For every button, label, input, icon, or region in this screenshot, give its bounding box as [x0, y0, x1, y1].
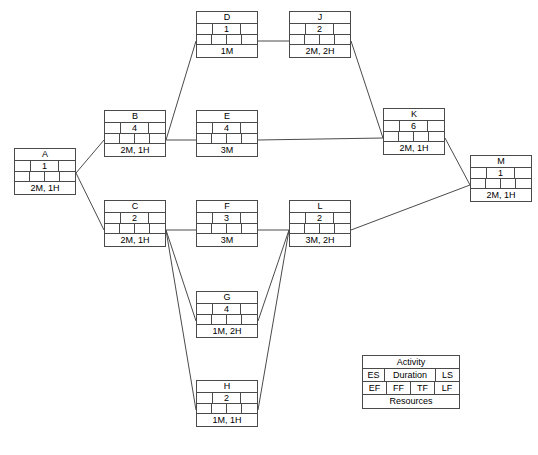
activity-node-h[interactable]: H21M, 1H [196, 380, 258, 427]
node-resources: 2M, 1H [384, 142, 444, 154]
node-resources: 3M [197, 144, 257, 156]
node-ls-cell [241, 213, 257, 223]
legend-row-mid: ES Duration LS [363, 369, 459, 382]
node-lf-cell [242, 134, 257, 143]
node-ef-cell [15, 172, 30, 181]
node-ef-cell [197, 404, 212, 413]
node-resources-row: 2M, 1H [105, 144, 165, 156]
node-name: K [384, 109, 444, 120]
activity-node-d[interactable]: D11M [196, 11, 258, 58]
node-name-row: B [105, 111, 165, 123]
node-duration-cell: 2 [306, 213, 334, 223]
node-name-row: K [384, 109, 444, 121]
legend-ls-label: LS [436, 369, 459, 381]
node-ef-cell [197, 224, 212, 233]
node-ls-cell [149, 123, 165, 133]
activity-node-k[interactable]: K62M, 1H [383, 108, 445, 155]
node-lf-cell [242, 35, 257, 44]
node-lf-cell [242, 224, 257, 233]
node-ls-cell [59, 161, 75, 171]
node-ff-cell [120, 224, 135, 233]
node-es-duration-ls-row: 6 [384, 121, 444, 132]
edge-k-to-m [445, 138, 470, 185]
node-tf-cell [320, 224, 335, 233]
legend-tf-label: TF [411, 382, 435, 394]
node-ff-cell [212, 404, 227, 413]
node-ef-cell [290, 35, 305, 44]
node-es-cell [290, 24, 306, 34]
node-ls-cell [241, 393, 257, 403]
node-tf-cell [227, 404, 242, 413]
node-ff-cell [212, 224, 227, 233]
node-ff-cell [305, 35, 320, 44]
node-es-duration-ls-row: 1 [15, 161, 75, 172]
node-resources-row: 1M, 1H [197, 414, 257, 426]
activity-node-m[interactable]: M12M, 1H [470, 155, 532, 202]
node-resources: 2M, 1H [471, 189, 531, 201]
node-resources: 1M, 1H [197, 414, 257, 426]
node-ff-cell [305, 224, 320, 233]
node-es-duration-ls-row: 2 [290, 213, 350, 224]
node-ls-cell [149, 213, 165, 223]
activity-node-c[interactable]: C22M, 1H [104, 200, 166, 247]
node-name: A [15, 149, 75, 160]
node-ff-cell [212, 35, 227, 44]
node-resources: 3M, 2H [290, 234, 350, 246]
node-resources-row: 2M, 2H [290, 45, 350, 57]
activity-node-j[interactable]: J22M, 2H [289, 11, 351, 58]
legend-row-resources: Resources [363, 395, 459, 408]
node-es-cell [197, 123, 213, 133]
node-duration-cell: 4 [213, 123, 241, 133]
activity-node-e[interactable]: E43M [196, 110, 258, 157]
node-ef-cell [471, 179, 486, 188]
node-es-duration-ls-row: 1 [197, 24, 257, 35]
edge-l-to-m [351, 185, 470, 230]
node-es-cell [197, 304, 213, 314]
node-ef-ff-tf-lf-row [197, 315, 257, 325]
node-duration-cell: 1 [213, 24, 241, 34]
node-name: F [197, 201, 257, 212]
node-name-row: J [290, 12, 350, 24]
node-lf-cell [429, 132, 444, 141]
node-ef-cell [384, 132, 399, 141]
node-name-row: A [15, 149, 75, 161]
node-ls-cell [515, 168, 531, 178]
node-resources-row: 2M, 1H [15, 182, 75, 194]
node-es-cell [197, 213, 213, 223]
node-resources-row: 1M [197, 45, 257, 57]
node-tf-cell [414, 132, 429, 141]
node-ff-cell [486, 179, 501, 188]
node-duration-cell: 1 [487, 168, 515, 178]
activity-node-f[interactable]: F33M [196, 200, 258, 247]
node-duration-cell: 4 [121, 123, 149, 133]
node-es-duration-ls-row: 4 [105, 123, 165, 134]
node-ef-cell [105, 134, 120, 143]
node-resources-row: 2M, 1H [471, 189, 531, 201]
node-resources: 1M [197, 45, 257, 57]
node-resources: 2M, 2H [290, 45, 350, 57]
node-tf-cell [135, 134, 150, 143]
node-resources-row: 3M, 2H [290, 234, 350, 246]
node-lf-cell [242, 315, 257, 324]
node-ff-cell [399, 132, 414, 141]
node-duration-cell: 4 [213, 304, 241, 314]
activity-node-b[interactable]: B42M, 1H [104, 110, 166, 157]
activity-node-g[interactable]: G41M, 2H [196, 291, 258, 338]
legend-activity-label: Activity [363, 356, 459, 368]
edge-a-to-b [76, 140, 104, 173]
node-resources-row: 3M [197, 234, 257, 246]
node-es-duration-ls-row: 4 [197, 304, 257, 315]
node-ef-cell [290, 224, 305, 233]
node-ls-cell [428, 121, 444, 131]
node-lf-cell [335, 35, 350, 44]
node-tf-cell [45, 172, 60, 181]
legend-duration-label: Duration [385, 369, 436, 381]
edge-a-to-c [76, 173, 104, 230]
legend-ef-label: EF [363, 382, 387, 394]
activity-node-l[interactable]: L23M, 2H [289, 200, 351, 247]
node-ef-ff-tf-lf-row [197, 134, 257, 144]
node-lf-cell [150, 134, 165, 143]
node-ef-ff-tf-lf-row [105, 224, 165, 234]
activity-node-a[interactable]: A12M, 1H [14, 148, 76, 195]
node-es-duration-ls-row: 4 [197, 123, 257, 134]
